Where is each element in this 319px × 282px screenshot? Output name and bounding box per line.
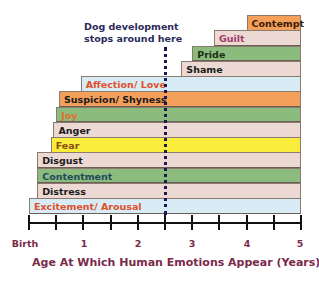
bar-label: Joy [61, 109, 77, 122]
x-axis-tick [28, 215, 30, 230]
x-axis-tick [55, 215, 57, 230]
tick-label-2: 2 [135, 238, 142, 249]
x-axis-tick [110, 215, 112, 230]
bar-label: Fear [56, 139, 80, 152]
bar-label: Shame [186, 63, 222, 76]
x-axis-tick [273, 215, 275, 230]
bar-distress: Distress [37, 183, 301, 199]
x-axis-tick [218, 215, 220, 230]
dog-development-annotation: Dog development stops around here [84, 21, 234, 45]
x-axis-tick [164, 215, 166, 230]
bar-suspicion-shyness: Suspicion/ Shyness [59, 91, 301, 107]
x-axis-title: Age At Which Human Emotions Appear (Year… [32, 256, 307, 269]
annotation-line-1: Dog development [84, 21, 234, 33]
bar-pride: Pride [192, 46, 301, 62]
bar-label: Excitement/ Arousal [34, 200, 142, 213]
bar-label: Contempt [252, 17, 305, 30]
bar-label: Contentment [42, 170, 112, 183]
tick-label-5: 5 [297, 238, 304, 249]
bar-affection-love: Affection/ Love [81, 76, 301, 92]
bar-label: Disgust [42, 154, 83, 167]
bar-label: Anger [58, 124, 90, 137]
bar-anger: Anger [53, 122, 301, 138]
bar-label: Pride [197, 48, 225, 61]
bar-contempt: Contempt [247, 15, 301, 31]
x-axis-tick [82, 215, 84, 230]
bar-joy: Joy [56, 107, 301, 123]
annotation-line-2: stops around here [84, 33, 234, 45]
bar-label: Suspicion/ Shyness [64, 93, 167, 106]
dog-development-dotted-line [164, 47, 167, 215]
tick-label-1: 1 [81, 238, 88, 249]
tick-label-3: 3 [189, 238, 196, 249]
bar-disgust: Disgust [37, 152, 301, 168]
x-axis-tick [191, 215, 193, 230]
x-axis-tick [137, 215, 139, 230]
x-axis-tick [300, 215, 302, 230]
emotion-development-chart: ContemptGuiltPrideShameAffection/ LoveSu… [0, 0, 319, 282]
x-axis-tick [246, 215, 248, 230]
bar-label: Affection/ Love [86, 78, 166, 91]
tick-label-birth: Birth [12, 238, 39, 249]
bar-fear: Fear [51, 137, 301, 153]
bar-shame: Shame [181, 61, 301, 77]
bar-label: Distress [42, 185, 86, 198]
bar-contentment: Contentment [37, 168, 301, 184]
tick-label-4: 4 [244, 238, 251, 249]
